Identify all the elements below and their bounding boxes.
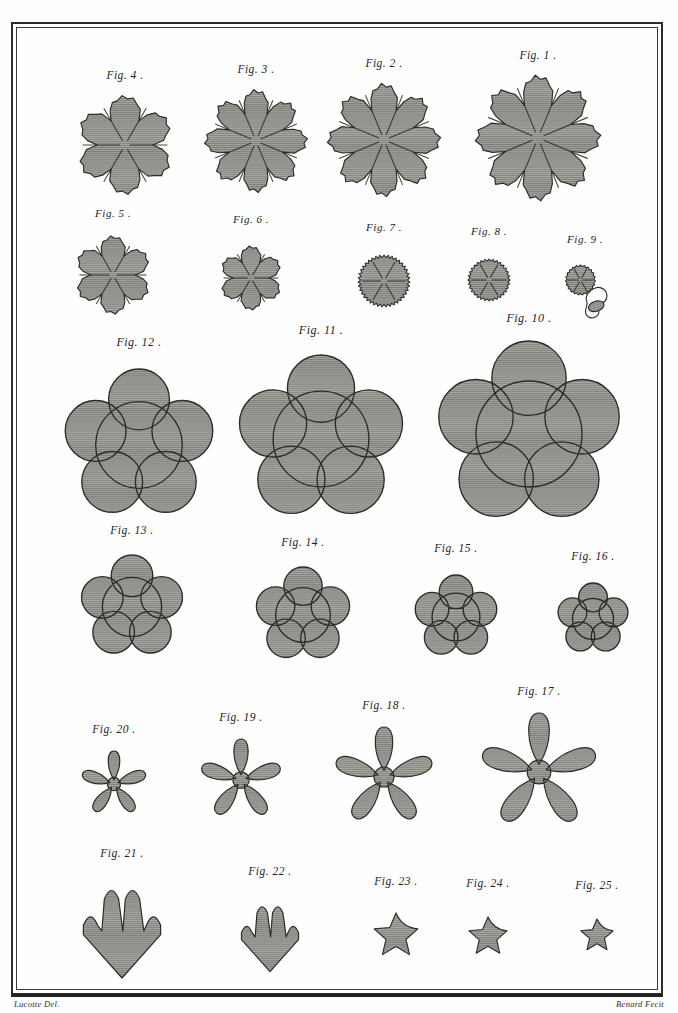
figure-caption-23: Fig. 23 . <box>374 875 417 887</box>
fragment-group <box>585 287 607 317</box>
figure-caption-10: Fig. 10 . <box>506 311 551 326</box>
figure-caption-9: Fig. 9 . <box>567 233 603 245</box>
figure-drawing-21 <box>74 877 170 986</box>
figure-caption-1: Fig. 1 . <box>519 49 556 61</box>
figure-drawing-2 <box>323 79 445 201</box>
figure-drawing-18 <box>328 721 440 833</box>
figure-drawing-23 <box>367 907 425 965</box>
figure-caption-11: Fig. 11 . <box>299 323 343 338</box>
figure-caption-20: Fig. 20 . <box>92 723 135 735</box>
figure-caption-3: Fig. 3 . <box>237 63 274 75</box>
figure-caption-25: Fig. 25 . <box>575 879 618 891</box>
figure-drawing-16 <box>551 577 635 661</box>
figure-caption-14: Fig. 14 . <box>281 536 324 548</box>
figure-caption-19: Fig. 19 . <box>219 711 262 723</box>
figure-drawing-9 <box>559 259 639 301</box>
figure-caption-24: Fig. 24 . <box>466 877 509 889</box>
figure-drawing-22 <box>233 897 307 978</box>
figure-drawing-1 <box>471 71 605 205</box>
figure-caption-18: Fig. 18 . <box>362 699 405 711</box>
figure-drawing-24 <box>462 911 514 963</box>
figure-caption-2: Fig. 2 . <box>365 57 402 69</box>
figure-drawing-17 <box>474 707 604 837</box>
figure-drawing-8 <box>462 253 516 307</box>
figure-drawing-20 <box>75 745 153 823</box>
figure-drawing-10 <box>430 335 628 533</box>
figure-caption-8: Fig. 8 . <box>471 225 507 237</box>
figure-caption-16: Fig. 16 . <box>571 550 614 562</box>
figure-caption-21: Fig. 21 . <box>100 847 143 859</box>
figure-caption-15: Fig. 15 . <box>434 542 477 554</box>
figure-caption-22: Fig. 22 . <box>248 865 291 877</box>
designer-credit: Lucotte Del. <box>14 999 60 1009</box>
figure-drawing-4 <box>71 91 179 199</box>
figure-caption-6: Fig. 6 . <box>233 213 269 225</box>
figure-field: Fig. 4 . Fig. 3 . Fig. 2 . Fig. 1 . Fig.… <box>16 27 658 990</box>
engraved-plate: Fig. 4 . Fig. 3 . Fig. 2 . Fig. 1 . Fig.… <box>0 0 678 1013</box>
figure-drawing-15 <box>408 569 504 665</box>
figure-drawing-25 <box>574 913 620 959</box>
figure-drawing-6 <box>214 241 288 315</box>
figure-caption-5: Fig. 5 . <box>95 207 131 219</box>
figure-drawing-5 <box>69 231 157 319</box>
figure-drawing-13 <box>74 549 190 665</box>
figure-caption-13: Fig. 13 . <box>110 524 153 536</box>
figure-drawing-14 <box>249 561 357 669</box>
figure-drawing-7 <box>352 249 416 313</box>
engraver-credit: Benard Fecit <box>616 999 664 1009</box>
figure-drawing-3 <box>200 85 312 197</box>
figure-drawing-12 <box>57 363 221 527</box>
figure-drawing-19 <box>194 733 288 827</box>
figure-caption-17: Fig. 17 . <box>517 685 560 697</box>
figure-caption-7: Fig. 7 . <box>366 221 402 233</box>
figure-caption-12: Fig. 12 . <box>116 335 161 350</box>
figure-caption-4: Fig. 4 . <box>106 69 143 81</box>
figure-drawing-11 <box>231 349 411 529</box>
